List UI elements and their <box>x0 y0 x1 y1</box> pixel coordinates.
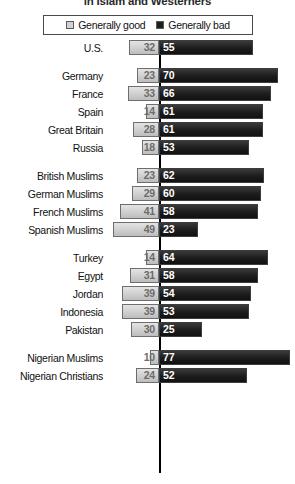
bar-row: British Muslims2362 <box>0 168 295 184</box>
group-separator <box>0 340 295 350</box>
bar-row: Germany2370 <box>0 68 295 84</box>
bar-row-label: Great Britain <box>0 123 103 137</box>
bar-row: German Muslims2960 <box>0 186 295 202</box>
bar-value-good: 33 <box>144 87 158 100</box>
bar-generally-good: 14 <box>146 250 159 265</box>
bar-generally-bad: 53 <box>159 140 249 155</box>
bar-row: Spanish Muslims4923 <box>0 222 295 238</box>
bar-generally-bad: 58 <box>159 204 258 219</box>
bar-row-label: French Muslims <box>0 205 103 219</box>
bar-row: Nigerian Christians2452 <box>0 368 295 384</box>
bar-generally-bad: 58 <box>159 268 258 283</box>
legend-label-generally-bad: Generally bad <box>168 19 229 31</box>
bar-generally-good: 39 <box>122 304 159 319</box>
bar-value-bad: 53 <box>160 305 174 318</box>
bar-value-good: 18 <box>144 141 158 154</box>
bar-value-bad: 60 <box>160 187 174 200</box>
bar-generally-bad: 62 <box>159 168 264 183</box>
bar-value-bad: 77 <box>160 351 174 364</box>
bar-generally-good: 28 <box>133 122 159 137</box>
bar-generally-bad: 64 <box>159 250 268 265</box>
bar-generally-good: 23 <box>137 68 159 83</box>
bar-row-label: Nigerian Christians <box>0 369 103 383</box>
bar-generally-bad: 23 <box>159 222 198 237</box>
bar-generally-good: 31 <box>130 268 159 283</box>
bar-value-bad: 23 <box>160 223 174 236</box>
bar-value-bad: 66 <box>160 87 174 100</box>
bar-value-good: 31 <box>144 269 158 282</box>
bar-generally-good: 24 <box>136 368 159 383</box>
group-separator <box>0 158 295 168</box>
bar-value-bad: 25 <box>160 323 174 336</box>
bar-value-bad: 61 <box>160 123 174 136</box>
bar-generally-bad: 61 <box>159 122 263 137</box>
bar-value-bad: 61 <box>160 105 174 118</box>
bar-value-good: 39 <box>144 305 158 318</box>
bar-generally-good: 29 <box>132 186 159 201</box>
bar-value-good: 24 <box>144 369 158 382</box>
bar-row-label: Pakistan <box>0 323 103 337</box>
bar-generally-bad: 53 <box>159 304 249 319</box>
bar-row-label: Egypt <box>0 269 103 283</box>
bar-value-bad: 58 <box>160 205 174 218</box>
bar-row-label: Spanish Muslims <box>0 223 103 237</box>
bar-value-good: 28 <box>144 123 158 136</box>
plot-area: U.S.3255Germany2370France3366Spain1461Gr… <box>0 40 295 484</box>
bar-row-label: German Muslims <box>0 187 103 201</box>
bar-row-label: Germany <box>0 69 103 83</box>
bar-row: Great Britain2861 <box>0 122 295 138</box>
bar-value-good: 29 <box>144 187 158 200</box>
bar-generally-good: 18 <box>142 140 159 155</box>
legend-swatch-good-icon <box>66 21 74 29</box>
bar-row: Turkey1464 <box>0 250 295 266</box>
bar-value-good: 41 <box>144 205 158 218</box>
bar-value-bad: 55 <box>160 41 174 54</box>
bar-generally-bad: 52 <box>159 368 247 383</box>
bar-rows-container: U.S.3255Germany2370France3366Spain1461Gr… <box>0 40 295 386</box>
bar-generally-bad: 66 <box>159 86 271 101</box>
bar-row-label: Indonesia <box>0 305 103 319</box>
bar-generally-good: 32 <box>129 40 159 55</box>
bar-value-bad: 54 <box>160 287 174 300</box>
bar-value-good: 30 <box>144 323 158 336</box>
bar-generally-bad: 77 <box>159 350 290 365</box>
bar-row: Russia1853 <box>0 140 295 156</box>
legend-swatch-bad-icon <box>156 21 164 29</box>
bar-row: Jordan3954 <box>0 286 295 302</box>
bar-generally-good: 30 <box>131 322 159 337</box>
bar-row: France3366 <box>0 86 295 102</box>
bar-generally-good: 23 <box>137 168 159 183</box>
bar-row: Pakistan3025 <box>0 322 295 338</box>
bar-value-good: 10 <box>144 351 158 364</box>
bar-row-label: U.S. <box>0 41 103 55</box>
legend-item-generally-good: Generally good <box>66 19 145 31</box>
bar-row: U.S.3255 <box>0 40 295 56</box>
bar-row-label: Jordan <box>0 287 103 301</box>
bar-row-label: Spain <box>0 105 103 119</box>
bar-generally-bad: 54 <box>159 286 251 301</box>
bar-generally-bad: 25 <box>159 322 202 337</box>
bar-generally-good: 14 <box>146 104 159 119</box>
bar-generally-bad: 60 <box>159 186 261 201</box>
bar-value-bad: 52 <box>160 369 174 382</box>
group-separator <box>0 240 295 250</box>
bar-generally-bad: 55 <box>159 40 253 55</box>
bar-row: French Muslims4158 <box>0 204 295 220</box>
bar-value-good: 23 <box>144 169 158 182</box>
bar-value-bad: 53 <box>160 141 174 154</box>
bar-row-label: Turkey <box>0 251 103 265</box>
bar-generally-good: 10 <box>150 350 159 365</box>
bar-row-label: Russia <box>0 141 103 155</box>
bar-row-label: France <box>0 87 103 101</box>
bar-value-good: 32 <box>144 41 158 54</box>
chart-legend: Generally good Generally bad <box>43 15 253 35</box>
bar-row-label: British Muslims <box>0 169 103 183</box>
legend-item-generally-bad: Generally bad <box>156 19 229 31</box>
bar-row: Nigerian Muslims1077 <box>0 350 295 366</box>
bar-generally-good: 39 <box>122 286 159 301</box>
chart-title: in Islam and Westerners <box>0 0 295 5</box>
bar-value-bad: 64 <box>160 251 174 264</box>
bar-generally-bad: 61 <box>159 104 263 119</box>
bar-value-bad: 58 <box>160 269 174 282</box>
group-separator <box>0 58 295 68</box>
